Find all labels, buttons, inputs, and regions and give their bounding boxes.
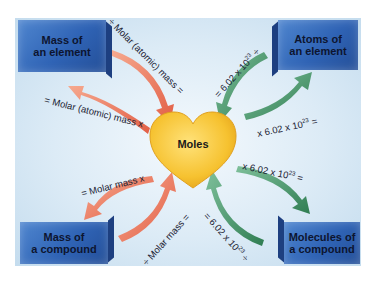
box-atoms-of-element[interactable]: Atoms ofan element [278,20,358,70]
box-mass-of-compound[interactable]: Mass ofa compound [20,222,108,264]
moles-heart [150,112,236,188]
box-molecules-of-compound-label: Molecules ofa compound [289,231,356,255]
box-mass-of-element[interactable]: Mass ofan element [18,20,106,72]
arrow-tr-out [244,72,312,120]
arrow-br-in [206,170,264,246]
box-molecules-of-compound[interactable]: Molecules ofa compound [284,222,360,264]
center-label: Moles [165,138,221,150]
box-atoms-of-element-label: Atoms ofan element [289,33,346,57]
box-mass-of-compound-label: Mass ofa compound [31,231,96,255]
box-mass-of-element-label: Mass ofan element [33,34,90,58]
